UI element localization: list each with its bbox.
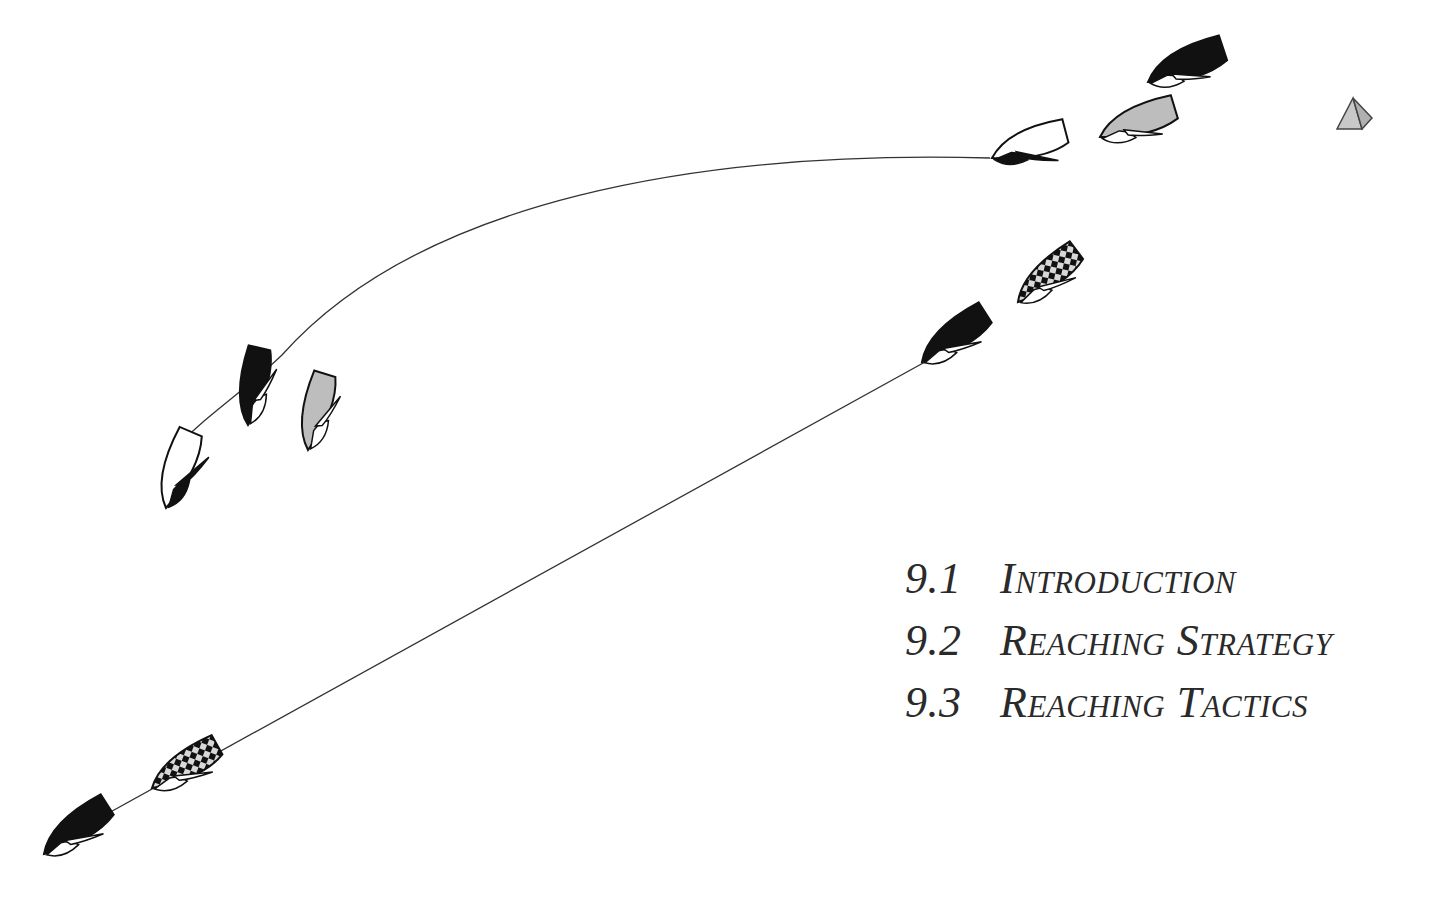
boat-black-middle <box>910 301 998 370</box>
race-diagram <box>0 0 1454 903</box>
boat-gray-top <box>1095 95 1181 147</box>
toc-title: Reaching Tactics <box>1000 678 1308 727</box>
toc-item-reaching-tactics: 9.3Reaching Tactics <box>905 672 1332 734</box>
boat-black-bottom <box>32 793 120 862</box>
toc-item-reaching-strategy: 9.2Reaching Strategy <box>905 610 1332 672</box>
pyramid-mark-icon <box>1337 98 1372 129</box>
toc-number: 9.2 <box>905 610 1000 672</box>
toc-title: Introduction <box>1000 554 1236 603</box>
toc-number: 9.3 <box>905 672 1000 734</box>
boat-checkered-upper <box>1005 240 1089 310</box>
toc-title: Reaching Strategy <box>1000 616 1332 665</box>
table-of-contents: 9.1Introduction 9.2Reaching Strategy 9.3… <box>905 548 1332 734</box>
straight-track-line <box>105 362 925 815</box>
curved-track-line <box>172 157 990 452</box>
boat-gray-left <box>286 369 347 454</box>
boat-white-top <box>987 119 1071 172</box>
toc-number: 9.1 <box>905 548 1000 610</box>
boat-white-left <box>143 425 216 514</box>
boat-black-leading <box>1141 35 1230 92</box>
toc-item-introduction: 9.1Introduction <box>905 548 1332 610</box>
boat-checkered-lower <box>142 734 227 797</box>
boat-black-left <box>225 343 281 428</box>
